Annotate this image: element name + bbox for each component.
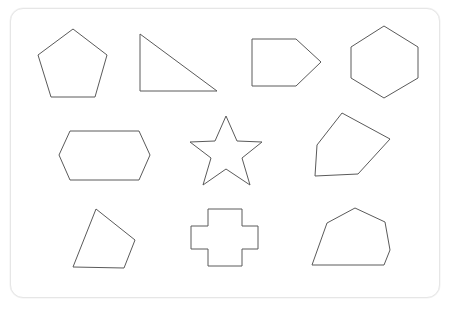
shape-cross[interactable] (191, 209, 258, 266)
shape-arrow-pentagon[interactable] (252, 39, 321, 86)
shape-five-point-star[interactable] (190, 116, 262, 185)
shape-irregular-pentagon-kite[interactable] (315, 113, 390, 176)
shape-right-triangle[interactable] (140, 34, 217, 91)
shape-elongated-hexagon[interactable] (59, 131, 150, 180)
shapes-svg-layer (0, 0, 452, 319)
shape-irregular-quadrilateral[interactable] (73, 209, 135, 268)
shape-hexagon[interactable] (351, 26, 418, 98)
shape-irregular-hexagon[interactable] (312, 208, 390, 265)
shape-gallery-canvas (0, 0, 452, 319)
shape-pentagon[interactable] (38, 29, 107, 97)
